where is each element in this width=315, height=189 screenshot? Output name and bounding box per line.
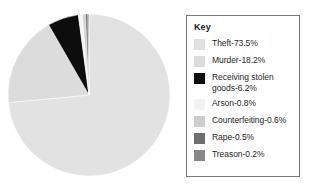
legend-color-swatch — [194, 56, 205, 67]
legend-title: Key — [194, 22, 293, 33]
legend-color-swatch — [194, 150, 205, 161]
legend-item[interactable]: Theft-73.5% — [194, 38, 293, 50]
legend-item[interactable]: Receiving stolen goods-6.2% — [194, 72, 293, 93]
legend-item-label: Arson-0.8% — [212, 98, 256, 109]
legend-item[interactable]: Arson-0.8% — [194, 98, 293, 110]
legend-item[interactable]: Counterfeiting-0.6% — [194, 115, 293, 127]
legend-item-label: Counterfeiting-0.6% — [212, 115, 286, 126]
legend-item[interactable]: Rape-0.5% — [194, 132, 293, 144]
legend-color-swatch — [194, 133, 205, 144]
legend-item-label: Murder-18.2% — [212, 55, 265, 66]
pie-chart-area — [0, 0, 182, 189]
legend-color-swatch — [194, 73, 205, 84]
legend-item-label: Receiving stolen goods-6.2% — [212, 72, 274, 93]
legend-item[interactable]: Treason-0.2% — [194, 149, 293, 161]
legend-key-box: Key Theft-73.5%Murder-18.2%Receiving sto… — [186, 15, 300, 177]
legend-item[interactable]: Murder-18.2% — [194, 55, 293, 67]
legend-item-label: Rape-0.5% — [212, 132, 254, 143]
legend-item-label: Theft-73.5% — [212, 38, 258, 49]
legend-item-list: Theft-73.5%Murder-18.2%Receiving stolen … — [194, 38, 293, 161]
legend-color-swatch — [194, 99, 205, 110]
pie-chart-svg — [0, 0, 182, 189]
legend-item-label: Treason-0.2% — [212, 149, 264, 160]
legend-color-swatch — [194, 39, 205, 50]
legend-color-swatch — [194, 116, 205, 127]
